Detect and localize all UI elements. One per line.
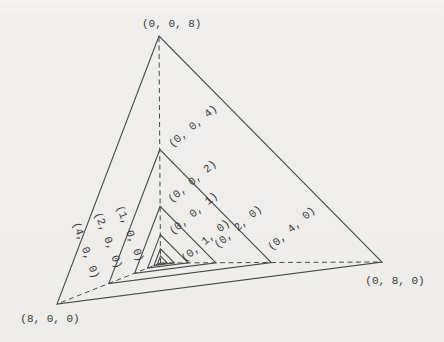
diagram-canvas: (0, 0, 8) (8, 0, 0) (0, 8, 0) (0, 0, 4) … [0, 0, 444, 342]
vertex-label-0-0-8: (0, 0, 8) [142, 18, 201, 30]
simplex-diagram: (0, 0, 8) (8, 0, 0) (0, 8, 0) (0, 0, 4) … [0, 0, 444, 342]
simplex-sum-8 [57, 36, 382, 304]
vertex-label-0-4-0: (0, 4, 0) [266, 204, 318, 253]
vertex-label-0-0-4: (0, 0, 4) [167, 103, 220, 150]
vertex-label-8-0-0: (8, 0, 0) [20, 313, 79, 325]
triangles-group [57, 36, 382, 304]
dashed-axes-group [57, 37, 382, 304]
vertex-label-0-8-0: (0, 8, 0) [365, 275, 424, 287]
labels-group: (0, 0, 8) (8, 0, 0) (0, 8, 0) (0, 0, 4) … [20, 18, 424, 325]
